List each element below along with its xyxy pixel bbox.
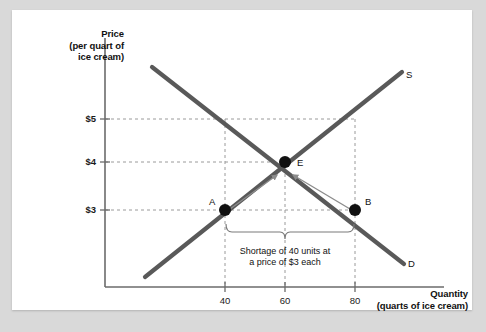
adjustment-arrows xyxy=(230,175,350,209)
shortage-annotation-line2: a price of $3 each xyxy=(249,257,321,267)
xtick-label-40: 40 xyxy=(210,295,240,306)
ytick-label-4: $4 xyxy=(70,156,96,167)
shortage-annotation: Shortage of 40 units ata price of $3 eac… xyxy=(205,246,365,268)
data-point-e[interactable] xyxy=(279,156,291,168)
xtick-label-60: 60 xyxy=(270,295,300,306)
figure-page: Price(per quart of ice cream) Quantity(q… xyxy=(0,0,486,332)
point-label-e: E xyxy=(297,157,303,168)
shortage-annotation-line1: Shortage of 40 units at xyxy=(240,246,331,256)
x-axis-title-sub: (quarts of ice cream) xyxy=(377,300,468,311)
demand-curve-label: D xyxy=(408,258,415,269)
point-label-b: B xyxy=(365,196,371,207)
xtick-label-80: 80 xyxy=(340,295,370,306)
arrow-from-b-to-e xyxy=(293,175,350,209)
y-axis-title-sub: (per quart of ice cream) xyxy=(69,40,124,63)
data-point-b[interactable] xyxy=(349,204,361,216)
data-point-a[interactable] xyxy=(219,204,231,216)
demand-curve xyxy=(152,67,404,264)
y-axis-title-main: Price xyxy=(101,28,124,39)
arrow-from-a-to-e xyxy=(230,175,277,209)
supply-curve-label: S xyxy=(406,69,412,80)
ytick-label-5: $5 xyxy=(70,113,96,124)
ytick-label-3: $3 xyxy=(70,204,96,215)
point-label-a: A xyxy=(209,196,215,207)
x-axis-title-main: Quantity xyxy=(430,288,468,299)
shortage-brace xyxy=(226,224,354,239)
chart-card: Price(per quart of ice cream) Quantity(q… xyxy=(12,10,472,310)
y-axis-title: Price(per quart of ice cream) xyxy=(42,28,124,63)
